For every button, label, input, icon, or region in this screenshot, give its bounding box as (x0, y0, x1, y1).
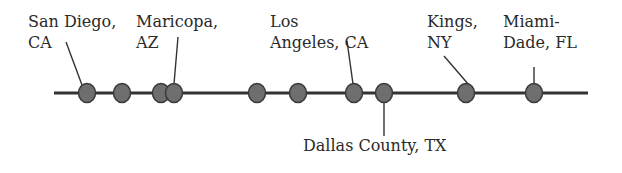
node-marker (114, 84, 131, 103)
node-marker (526, 84, 543, 103)
node-marker (458, 84, 475, 103)
leader-san-diego (66, 42, 82, 85)
node-marker (346, 84, 363, 103)
node-marker (166, 84, 183, 103)
node-marker (249, 84, 266, 103)
node-marker (376, 84, 393, 103)
leader-kings (444, 56, 469, 85)
label-los-angeles-line1: Los (270, 12, 298, 31)
label-san-diego-line1: San Diego, (28, 12, 116, 31)
label-los-angeles-line2: Angeles, CA (269, 33, 369, 52)
diagram-svg: San Diego, CA Maricopa, AZ Los Angeles, … (0, 0, 622, 173)
label-san-diego-line2: CA (28, 33, 52, 52)
label-miami-dade-line2: Dade, FL (503, 33, 577, 52)
label-maricopa-line2: AZ (135, 33, 159, 52)
leader-maricopa (174, 37, 178, 84)
label-kings-line1: Kings, (427, 12, 478, 31)
label-maricopa-line1: Maricopa, (136, 12, 218, 31)
node-marker (79, 84, 96, 103)
county-timeline-diagram: San Diego, CA Maricopa, AZ Los Angeles, … (0, 0, 622, 173)
label-miami-dade-line1: Miami- (503, 12, 560, 31)
label-kings-line2: NY (427, 33, 452, 52)
node-marker (290, 84, 307, 103)
label-dallas: Dallas County, TX (303, 136, 447, 155)
